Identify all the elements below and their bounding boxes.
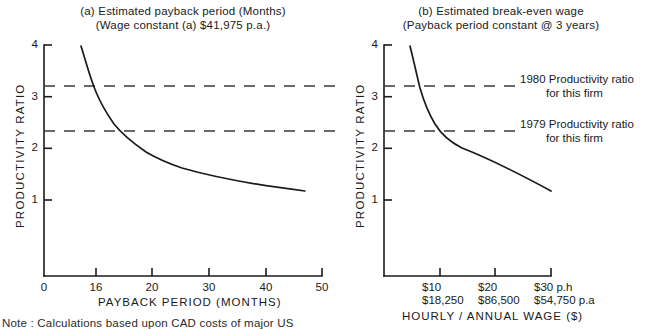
figure-container: (a) Estimated payback period (Months) (W…: [0, 0, 658, 330]
panel-b-xtick-30-hourly: $30 p.h: [534, 281, 595, 294]
figure-note: Note : Calculations based upon CAD costs…: [2, 317, 294, 329]
chart-panel-a: (a) Estimated payback period (Months) (W…: [0, 0, 340, 330]
panel-b-ytick-label-2: 2: [364, 141, 378, 153]
panel-b-annotation-1980-line1: 1980 Productivity ratio: [520, 73, 634, 85]
panel-b-xtick-10-annual: $18,250: [422, 294, 464, 307]
panel-a-xtick-label-20: 20: [142, 281, 162, 293]
panel-a-xtick-label-40: 40: [256, 281, 276, 293]
panel-a-xtick-label-50: 50: [312, 281, 332, 293]
panel-a-x-axis-label: PAYBACK PERIOD (MONTHS): [98, 296, 282, 308]
panel-b-ytick-label-4: 4: [364, 38, 378, 50]
panel-b-ytick-label-3: 3: [364, 90, 378, 102]
panel-a-ytick-label-2: 2: [24, 141, 38, 153]
panel-b-ytick-label-1: 1: [364, 193, 378, 205]
panel-b-annotation-1979-line2: for this firm: [520, 131, 634, 145]
panel-b-xtick-20-annual: $86,500: [478, 294, 520, 307]
panel-b-xtick-20-hourly: $20: [478, 281, 520, 294]
chart-panel-b: (b) Estimated break-even wage (Payback p…: [340, 0, 658, 330]
panel-b-xtick-30-annual: $54,750 p.a: [534, 294, 595, 307]
panel-b-annotation-1979: 1979 Productivity ratio for this firm: [520, 117, 634, 145]
panel-b-xtick-label-20: $20 $86,500: [478, 281, 520, 307]
panel-a-xtick-label-16: 16: [86, 281, 106, 293]
panel-b-x-axis-label: HOURLY / ANNUAL WAGE ($): [402, 310, 583, 322]
panel-a-ytick-label-1: 1: [24, 193, 38, 205]
panel-b-y-axis-label: PRODUCTIVITY RATIO: [354, 84, 366, 229]
panel-a-ytick-label-3: 3: [24, 90, 38, 102]
panel-b-annotation-1980-line2: for this firm: [520, 86, 634, 100]
panel-b-xtick-label-10: $10 $18,250: [422, 281, 464, 307]
panel-b-annotation-1979-line1: 1979 Productivity ratio: [520, 118, 634, 130]
panel-b-xtick-10-hourly: $10: [422, 281, 464, 294]
panel-a-xtick-label-0: 0: [34, 281, 54, 293]
panel-a-ytick-label-4: 4: [24, 38, 38, 50]
panel-a-xtick-label-30: 30: [199, 281, 219, 293]
panel-b-xtick-label-30: $30 p.h $54,750 p.a: [534, 281, 595, 307]
panel-b-annotation-1980: 1980 Productivity ratio for this firm: [520, 72, 634, 100]
panel-a-y-axis-label: PRODUCTIVITY RATIO: [14, 84, 26, 229]
panel-a-data-curve: [81, 46, 305, 191]
